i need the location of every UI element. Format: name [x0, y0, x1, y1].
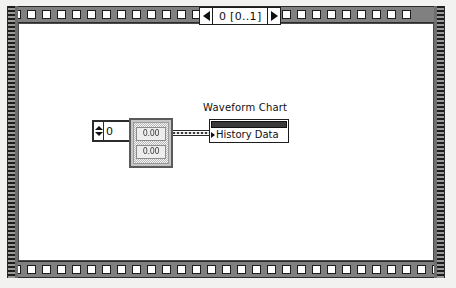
loop-border-square	[27, 265, 36, 274]
loop-border-square	[417, 265, 426, 274]
loop-border-square	[72, 10, 81, 19]
loop-border-bottom	[7, 261, 445, 278]
loop-border-square	[282, 265, 291, 274]
loop-border-square	[102, 265, 111, 274]
left-triangle-icon[interactable]	[200, 8, 213, 24]
decrement-arrow-icon[interactable]	[95, 132, 103, 136]
loop-border-square	[147, 10, 156, 19]
for-loop-structure[interactable]: 0 [0..1] 0 0.00 0.00 Waveform Chart	[7, 6, 445, 278]
loop-border-square	[102, 10, 111, 19]
loop-border-square	[87, 265, 96, 274]
waveform-chart-caption: Waveform Chart	[203, 103, 287, 113]
loop-border-square	[72, 265, 81, 274]
loop-border-square	[132, 10, 141, 19]
loop-border-square	[117, 265, 126, 274]
quantity-stepper[interactable]	[94, 122, 104, 140]
loop-border-square	[312, 265, 321, 274]
loop-border-square	[42, 10, 51, 19]
array-data-wire[interactable]	[173, 130, 214, 136]
array-cell[interactable]: 0.00	[136, 145, 166, 159]
loop-border-left	[7, 6, 18, 278]
increment-arrow-icon[interactable]	[95, 126, 103, 130]
loop-border-square	[372, 10, 381, 19]
loop-border-square	[402, 10, 411, 19]
terminal-header-bar	[211, 121, 287, 128]
right-triangle-icon[interactable]	[267, 8, 280, 24]
loop-border-square	[342, 265, 351, 274]
loop-border-square	[207, 265, 216, 274]
array-of-doubles[interactable]: 0.00 0.00	[129, 118, 173, 168]
input-terminal-arrow-icon	[211, 132, 215, 138]
loop-border-square	[57, 10, 66, 19]
numeric-control-value[interactable]: 0	[104, 122, 130, 140]
loop-border-square	[357, 265, 366, 274]
loop-border-square	[237, 265, 246, 274]
loop-iteration-label[interactable]: 0 [0..1]	[199, 7, 281, 25]
loop-border-square	[312, 10, 321, 19]
loop-border-square	[132, 265, 141, 274]
loop-iteration-text: 0 [0..1]	[213, 8, 267, 24]
loop-border-square	[162, 10, 171, 19]
loop-border-square	[177, 10, 186, 19]
loop-border-square	[327, 10, 336, 19]
waveform-chart-terminal-label: History Data	[210, 128, 288, 142]
loop-border-square	[267, 265, 276, 274]
loop-border-square	[42, 265, 51, 274]
loop-border-square	[357, 10, 366, 19]
loop-border-squares-bottom	[8, 262, 441, 277]
loop-border-square	[372, 265, 381, 274]
loop-border-square	[162, 265, 171, 274]
loop-border-square	[342, 10, 351, 19]
loop-border-square	[87, 10, 96, 19]
numeric-index-control[interactable]: 0	[92, 120, 132, 142]
loop-border-square	[387, 10, 396, 19]
loop-border-square	[147, 265, 156, 274]
loop-border-square	[282, 10, 291, 19]
loop-border-square	[297, 10, 306, 19]
loop-border-square	[27, 10, 36, 19]
loop-border-square	[57, 265, 66, 274]
loop-border-square	[297, 265, 306, 274]
loop-border-square	[327, 265, 336, 274]
loop-border-square	[222, 265, 231, 274]
loop-border-square	[387, 265, 396, 274]
block-diagram-canvas: 0 [0..1] 0 0.00 0.00 Waveform Chart	[0, 0, 456, 288]
loop-border-square	[192, 265, 201, 274]
waveform-chart-terminal[interactable]: History Data	[209, 119, 289, 143]
loop-border-square	[402, 265, 411, 274]
loop-border-square	[177, 265, 186, 274]
array-cell[interactable]: 0.00	[136, 127, 166, 141]
loop-border-square	[252, 265, 261, 274]
array-inner: 0.00 0.00	[133, 122, 169, 164]
loop-border-right	[434, 6, 445, 278]
loop-border-square	[117, 10, 126, 19]
